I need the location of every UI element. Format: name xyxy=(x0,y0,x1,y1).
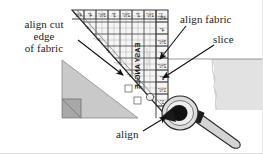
diagonal-scale-label: 3" xyxy=(106,49,110,54)
top-scale-label: 2" xyxy=(136,13,141,18)
right-scale-label: 1½" xyxy=(158,87,167,93)
annotation-label-slice: slice xyxy=(213,33,234,45)
right-scale-label: 4" xyxy=(160,28,165,33)
annotation-label-align-cut-edge: align cut edge of fabric xyxy=(8,18,80,54)
right-scale-label: 2" xyxy=(160,76,165,81)
top-scale-label: 3½" xyxy=(98,12,106,18)
right-scale-label: 4½" xyxy=(158,15,167,21)
annotation-line-1: align cut xyxy=(8,18,80,30)
figure-container: 4½" 4" 3½" 3" 2½" 2" 1½" 1" xyxy=(0,0,263,154)
diagonal-scale-label: 3½" xyxy=(93,37,101,42)
diagonal-scale-label: 2½" xyxy=(114,61,122,66)
diagonal-scale-label: 4" xyxy=(85,25,89,30)
annotation-label-align-fabric: align fabric xyxy=(180,13,232,25)
annotation-line-2: edge xyxy=(8,30,80,42)
right-scale-label: 1" xyxy=(160,100,165,105)
right-scale-label: 2½" xyxy=(158,63,167,69)
top-scale-label: 3" xyxy=(112,13,117,18)
arrow-slice xyxy=(163,45,214,78)
annotation-label-align: align xyxy=(116,128,139,140)
top-scale-label: 1½" xyxy=(146,12,154,18)
ruler-alignment-hole xyxy=(146,93,153,100)
annotation-line-3: of fabric xyxy=(8,42,80,54)
right-scale-label: 3½" xyxy=(158,39,167,45)
ruler-brand-label: EASY ANGLE xyxy=(133,43,142,90)
top-scale-label: 4" xyxy=(88,13,93,18)
top-scale-label: 2½" xyxy=(122,12,130,18)
arrow-align-bottom xyxy=(143,117,166,131)
diagonal-scale-label: 2" xyxy=(127,73,131,78)
